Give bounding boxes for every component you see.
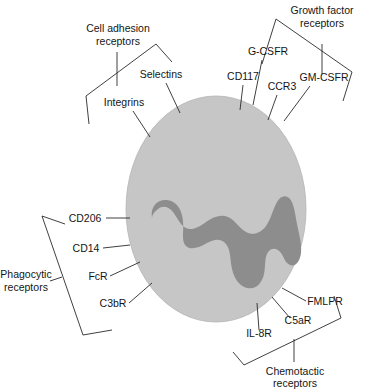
leader-cd14 bbox=[103, 245, 130, 248]
leader-ccr3 bbox=[268, 95, 277, 120]
receptor-label-gcsfr: G-CSFR bbox=[248, 45, 289, 57]
leader-c5ar bbox=[272, 297, 290, 318]
receptor-label-selectins: Selectins bbox=[140, 68, 183, 80]
group-label-phagocytic-line2: receptors bbox=[4, 281, 48, 293]
leader-fcr bbox=[110, 262, 140, 276]
group-label-growth-factor: Growth factor bbox=[290, 4, 354, 16]
group-label-chemotactic: Chemotactic bbox=[266, 365, 324, 377]
group-label-phagocytic: Phagocytic bbox=[0, 268, 51, 280]
group-label-chemotactic-line2: receptors bbox=[273, 377, 317, 389]
leader-c3br bbox=[129, 283, 152, 303]
phagocyte-receptor-diagram: Cell adhesion receptors Selectins Integr… bbox=[0, 0, 369, 390]
leader-integrins bbox=[133, 111, 150, 137]
receptor-label-cd206: CD206 bbox=[69, 212, 102, 224]
group-label-cell-adhesion-line2: receptors bbox=[96, 35, 140, 47]
receptor-label-gmcsfr: GM-CSFR bbox=[300, 71, 349, 83]
receptor-label-c3br: C3bR bbox=[100, 297, 127, 309]
receptor-label-cd117: CD117 bbox=[227, 70, 259, 82]
cell-adhesion-bracket bbox=[86, 44, 172, 124]
receptor-label-fmlpr: FMLPR bbox=[307, 295, 343, 307]
receptor-label-fcr: FcR bbox=[88, 270, 108, 282]
group-label-cell-adhesion: Cell adhesion bbox=[86, 22, 150, 34]
receptor-label-integrins: Integrins bbox=[104, 96, 144, 108]
group-label-growth-factor-line2: receptors bbox=[300, 17, 344, 29]
leader-gcsfr bbox=[253, 60, 262, 105]
phagocytic-bracket-tick bbox=[50, 277, 62, 281]
receptor-label-cd14: CD14 bbox=[73, 242, 100, 254]
leader-fmlpr bbox=[282, 288, 306, 301]
leader-selectins bbox=[166, 83, 180, 113]
receptor-label-ccr3: CCR3 bbox=[268, 80, 297, 92]
